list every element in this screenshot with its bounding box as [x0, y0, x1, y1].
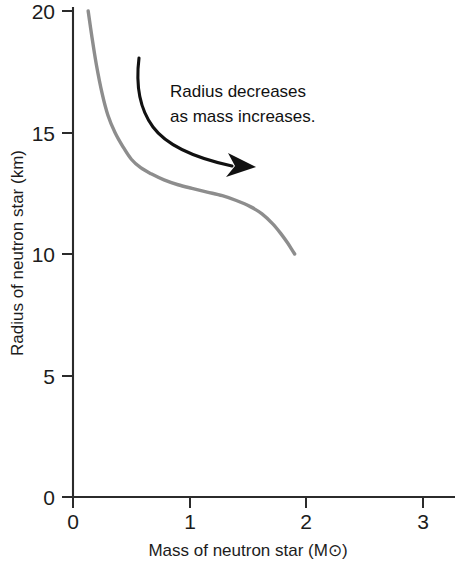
x-tick-label-1: 1	[184, 510, 196, 533]
annotation-text-line-1: Radius decreases	[170, 82, 306, 101]
x-tick-label-2: 2	[300, 510, 312, 533]
x-tick-label-3: 3	[417, 510, 429, 533]
y-tick-label-10: 10	[32, 243, 55, 266]
y-tick-label-5: 5	[43, 365, 55, 388]
x-axis-title: Mass of neutron star (M⊙)	[148, 541, 347, 560]
y-tick-label-0: 0	[43, 486, 55, 509]
chart-figure: 20 15 10 5 0 0 1 2 3 Mass of neutron sta…	[0, 0, 455, 562]
annotation-text-line-2: as mass increases.	[170, 107, 316, 126]
x-tick-label-0: 0	[67, 510, 79, 533]
y-tick-label-20: 20	[32, 0, 55, 23]
y-tick-label-15: 15	[32, 122, 55, 145]
y-axis-title: Radius of neutron star (km)	[8, 150, 27, 356]
